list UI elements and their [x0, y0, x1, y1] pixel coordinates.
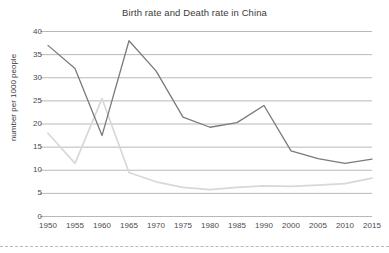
- y-tick-label: 25: [20, 96, 42, 105]
- x-tick-label: 1950: [33, 221, 63, 230]
- x-tick-label: 1990: [249, 221, 279, 230]
- series-line-birth-rate: [48, 41, 372, 164]
- y-tick-label: 0: [20, 212, 42, 221]
- x-tick-label: 1960: [87, 221, 117, 230]
- chart-container: Birth rate and Death rate in China numbe…: [0, 0, 389, 253]
- y-tick-label: 40: [20, 27, 42, 36]
- x-tick-label: 1970: [141, 221, 171, 230]
- bottom-divider: [0, 246, 389, 247]
- y-tick-label: 10: [20, 165, 42, 174]
- y-tick-label: 5: [20, 188, 42, 197]
- data-series-lines: [48, 41, 372, 190]
- x-tick-label: 1965: [114, 221, 144, 230]
- plot-area: [0, 0, 389, 253]
- y-tick-label: 20: [20, 119, 42, 128]
- x-tick-label: 2000: [276, 221, 306, 230]
- y-tick-label: 35: [20, 50, 42, 59]
- x-tick-label: 1985: [222, 221, 252, 230]
- x-tick-label: 1975: [168, 221, 198, 230]
- x-tick-label: 2010: [330, 221, 360, 230]
- series-line-death-rate: [48, 99, 372, 190]
- x-tick-label: 1980: [195, 221, 225, 230]
- x-tick-label: 1955: [60, 221, 90, 230]
- x-tick-label: 2005: [303, 221, 333, 230]
- y-tick-label: 30: [20, 73, 42, 82]
- x-tick-label: 2015: [357, 221, 387, 230]
- y-tick-label: 15: [20, 142, 42, 151]
